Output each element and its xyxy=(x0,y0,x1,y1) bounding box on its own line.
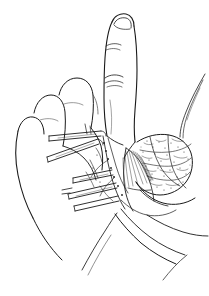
illustration-canvas xyxy=(0,0,209,296)
surgical-illustration-figure xyxy=(0,0,209,296)
figure-background xyxy=(0,0,209,296)
